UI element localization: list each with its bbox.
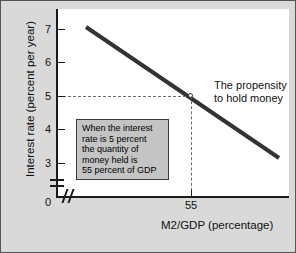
y-tick-label-3: 3	[35, 158, 51, 169]
y-axis-title: Interest rate (percent per year)	[24, 4, 36, 194]
y-tick-mark-3	[58, 163, 65, 164]
x-axis-title: M2/GDP (percentage)	[161, 219, 273, 231]
x-axis-break-icon	[63, 189, 75, 203]
guide-line-vertical-55percent	[191, 96, 192, 196]
y-tick-mark-6	[58, 62, 65, 63]
y-tick-mark-5	[58, 96, 65, 97]
y-tick-label-4: 4	[35, 124, 51, 135]
y-tick-label-7: 7	[35, 24, 51, 35]
x-axis-line	[56, 196, 289, 198]
chart-figure: 7 6 5 4 3 0 55 Interest rate (percent pe…	[0, 0, 296, 253]
callout-box: When the interest rate is 5 percent the …	[76, 119, 169, 180]
curve-label-annotation: The propensity to hold money	[214, 79, 287, 105]
callout-line-2: rate is 5 percent	[82, 134, 164, 145]
y-tick-mark-7	[58, 29, 65, 30]
callout-line-5: 55 percent of GDP	[82, 165, 164, 176]
intersection-point-marker	[188, 93, 193, 98]
callout-line-4: money held is	[82, 155, 164, 166]
y-axis-break-icon	[50, 178, 64, 190]
x-tick-mark-55	[191, 190, 192, 197]
curve-label-line-2: to hold money	[214, 92, 287, 105]
y-tick-label-0: 0	[35, 197, 51, 208]
y-tick-label-5: 5	[35, 91, 51, 102]
y-tick-label-6: 6	[35, 57, 51, 68]
x-tick-label-55: 55	[178, 199, 204, 211]
callout-line-3: the quantity of	[82, 144, 164, 155]
y-tick-mark-4	[58, 129, 65, 130]
guide-line-horizontal-5percent	[58, 96, 191, 97]
callout-line-1: When the interest	[82, 123, 164, 134]
curve-label-line-1: The propensity	[214, 79, 287, 92]
